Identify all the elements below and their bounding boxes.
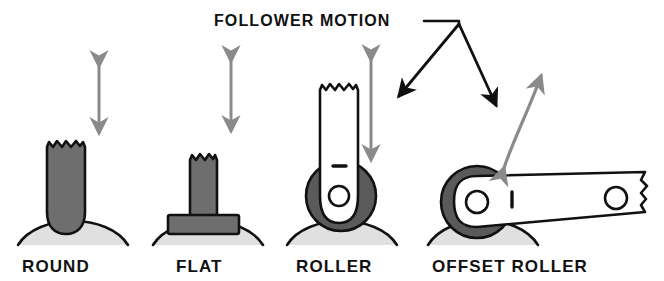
diagram-canvas: FOLLOWER MOTION ROUND [0,0,664,281]
pivot-hole-roller [329,186,349,206]
figure-offset-roller: OFFSET ROLLER [428,76,647,276]
follower-flat-face [168,215,239,234]
pivot-hole-left-offset [466,191,488,213]
cam-follower-diagram: FOLLOWER MOTION ROUND [0,0,664,281]
callout-arrow-to-offset-roller [459,24,496,105]
figure-label-offset-roller: OFFSET ROLLER [432,257,588,276]
motion-arrow-offset-roller [504,76,541,168]
figure-round: ROUND [18,66,128,276]
callout-arrow-to-roller [399,24,459,96]
callout-label: FOLLOWER MOTION [214,12,390,29]
figure-flat: FLAT [153,61,263,276]
follower-stem-flat [190,154,217,216]
figure-label-roller: ROLLER [296,257,372,276]
figure-label-round: ROUND [22,257,90,276]
figure-label-flat: FLAT [176,257,223,276]
pivot-hole-right-offset [605,187,627,209]
follower-body-round [47,141,85,234]
figure-roller: ROLLER [287,60,397,276]
callout-leader-stub [424,21,459,26]
